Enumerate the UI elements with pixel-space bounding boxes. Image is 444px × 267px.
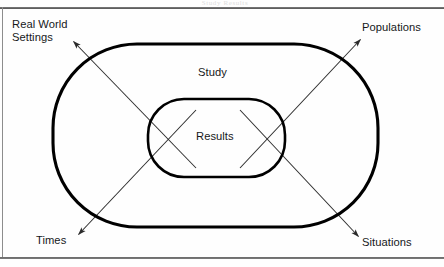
label-study: Study: [198, 66, 227, 79]
label-situations: Situations: [362, 236, 412, 249]
label-results: Results: [196, 130, 234, 143]
label-times: Times: [36, 234, 66, 247]
label-populations: Populations: [362, 21, 421, 34]
figure-container: Study Results Real World Settings Popula…: [0, 0, 444, 267]
arrow-to-situations: [240, 110, 359, 237]
label-real-world-settings: Real World Settings: [12, 18, 68, 45]
arrow-to-real-world-settings: [74, 42, 197, 169]
